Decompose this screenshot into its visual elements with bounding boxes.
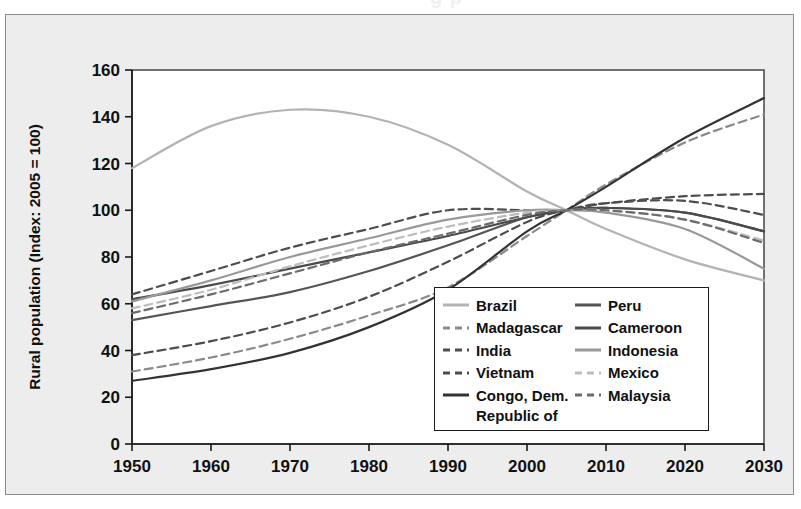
legend-item-label: Brazil: [476, 297, 517, 314]
legend-line-swatch-icon: [575, 344, 601, 356]
legend-item-label: Peru: [608, 297, 641, 314]
chart-legend: Brazil Madagascar India Vietnam Congo, D…: [434, 287, 709, 431]
svg-text:0: 0: [111, 435, 120, 454]
legend-item-label: Madagascar: [476, 319, 563, 336]
svg-text:Rural population (Index: 2005: Rural population (Index: 2005 = 100): [26, 124, 43, 390]
legend-item-label: India: [476, 342, 511, 359]
legend-item-label: Indonesia: [608, 342, 678, 359]
chart-figure: 0204060801001201401601950196019701980199…: [5, 14, 794, 495]
legend-line-swatch-icon: [443, 367, 469, 379]
legend-line-swatch-icon: [575, 299, 601, 311]
svg-text:1950: 1950: [113, 457, 151, 476]
svg-text:120: 120: [92, 155, 120, 174]
legend-line-swatch-icon: [443, 344, 469, 356]
legend-line-swatch-icon: [443, 299, 469, 311]
svg-text:2020: 2020: [666, 457, 704, 476]
legend-line-swatch-icon: [575, 389, 601, 401]
legend-item-label: Congo, Dem.: [476, 387, 569, 404]
legend-item-label-continuation: Republic of: [476, 407, 571, 424]
svg-text:2010: 2010: [587, 457, 625, 476]
svg-text:1990: 1990: [429, 457, 467, 476]
legend-item[interactable]: Brazil: [443, 294, 571, 317]
legend-item[interactable]: Vietnam: [443, 362, 571, 385]
legend-item[interactable]: Peru: [575, 294, 704, 317]
legend-item[interactable]: Mexico: [575, 362, 704, 385]
svg-text:1960: 1960: [192, 457, 230, 476]
svg-text:160: 160: [92, 61, 120, 80]
svg-text:2030: 2030: [745, 457, 783, 476]
legend-line-swatch-icon: [443, 322, 469, 334]
legend-item-label: Mexico: [608, 364, 659, 381]
svg-text:1970: 1970: [271, 457, 309, 476]
legend-line-swatch-icon: [443, 389, 469, 401]
svg-text:1980: 1980: [350, 457, 388, 476]
svg-text:140: 140: [92, 108, 120, 127]
legend-item[interactable]: Congo, Dem.: [443, 384, 571, 407]
legend-item-label: Vietnam: [476, 364, 534, 381]
svg-text:2000: 2000: [508, 457, 546, 476]
cut-off-caption-text: g p: [430, 0, 463, 9]
svg-text:20: 20: [101, 388, 120, 407]
legend-item-label: Malaysia: [608, 387, 671, 404]
legend-item-label: Cameroon: [608, 319, 682, 336]
legend-item[interactable]: Malaysia: [575, 384, 704, 407]
svg-text:60: 60: [101, 295, 120, 314]
svg-text:40: 40: [101, 342, 120, 361]
legend-line-swatch-icon: [575, 322, 601, 334]
legend-item[interactable]: India: [443, 339, 571, 362]
cut-off-caption: g p: [0, 0, 801, 13]
svg-text:80: 80: [101, 248, 120, 267]
legend-item[interactable]: Indonesia: [575, 339, 704, 362]
svg-text:100: 100: [92, 201, 120, 220]
legend-line-swatch-icon: [575, 367, 601, 379]
legend-item[interactable]: Cameroon: [575, 317, 704, 340]
legend-item[interactable]: Madagascar: [443, 317, 571, 340]
